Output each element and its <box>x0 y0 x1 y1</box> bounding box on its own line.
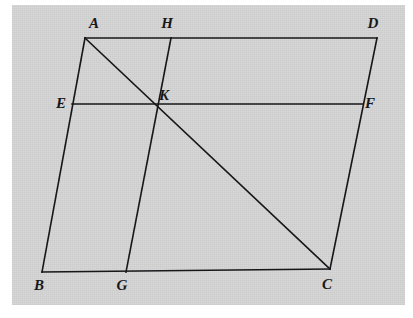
vertex-label-B: B <box>33 277 44 293</box>
vertex-label-C: C <box>322 276 333 292</box>
vertex-label-H: H <box>160 15 174 31</box>
geometry-figure: AHDEKFBGC <box>0 0 413 318</box>
vertex-label-E: E <box>55 95 66 111</box>
segment-AC <box>85 38 330 269</box>
diagram-canvas: AHDEKFBGC <box>0 0 413 318</box>
vertex-label-D: D <box>367 15 379 31</box>
vertex-label-G: G <box>117 277 128 293</box>
segment-BC <box>42 269 330 272</box>
vertex-label-K: K <box>158 87 170 103</box>
segment-AB <box>42 38 85 272</box>
segment-layer <box>42 38 377 272</box>
vertex-label-F: F <box>364 95 375 111</box>
segment-DC <box>330 38 377 269</box>
segment-HG <box>126 38 171 272</box>
vertex-label-layer: AHDEKFBGC <box>33 15 379 293</box>
vertex-label-A: A <box>88 15 99 31</box>
